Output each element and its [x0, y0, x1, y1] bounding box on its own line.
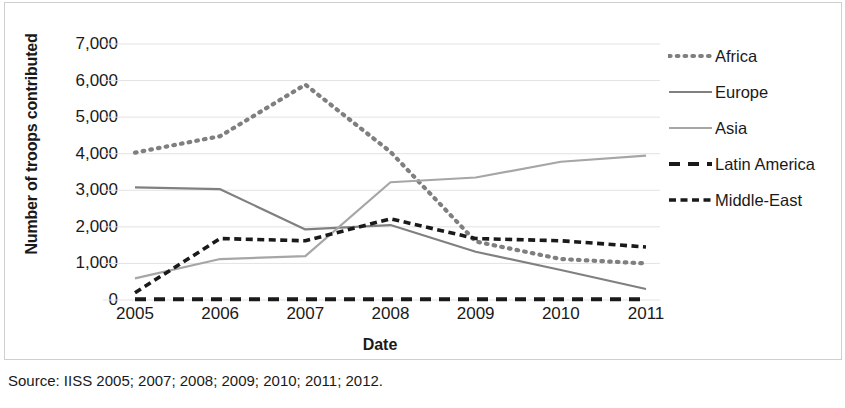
legend-item-latin-america[interactable]: Latin America: [668, 146, 843, 182]
series-line-europe: [135, 187, 646, 289]
x-tick-label: 2008: [351, 304, 431, 324]
legend: AfricaEuropeAsiaLatin AmericaMiddle-East: [668, 38, 843, 218]
legend-item-europe[interactable]: Europe: [668, 74, 843, 110]
figure: Number of troops contributed 01,0002,000…: [0, 0, 845, 408]
legend-item-middle-east[interactable]: Middle-East: [668, 182, 843, 218]
x-tick-label: 2005: [95, 304, 175, 324]
legend-label: Middle-East: [715, 191, 802, 210]
legend-line-swatch-icon: [668, 50, 713, 62]
series-line-africa: [135, 85, 646, 264]
legend-item-asia[interactable]: Asia: [668, 110, 843, 146]
x-tick-label: 2006: [180, 304, 260, 324]
legend-line-swatch-icon: [668, 122, 713, 134]
series-line-middle-east: [135, 219, 646, 293]
legend-line-swatch-icon: [668, 86, 713, 98]
x-tick-label: 2010: [521, 304, 601, 324]
x-axis-title: Date: [300, 336, 460, 354]
legend-label: Latin America: [715, 155, 815, 174]
x-tick-label: 2007: [265, 304, 345, 324]
x-tick-label: 2009: [436, 304, 516, 324]
legend-label: Africa: [715, 47, 757, 66]
legend-label: Europe: [715, 83, 768, 102]
source-caption: Source: IISS 2005; 2007; 2008; 2009; 201…: [8, 372, 383, 389]
x-tick-label: 2011: [606, 304, 686, 324]
legend-line-swatch-icon: [668, 158, 713, 170]
legend-label: Asia: [715, 119, 747, 138]
legend-item-africa[interactable]: Africa: [668, 38, 843, 74]
legend-line-swatch-icon: [668, 194, 713, 206]
